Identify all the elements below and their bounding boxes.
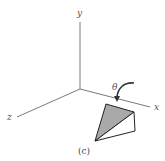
diagram-canvas: [0, 0, 165, 161]
rotation-diagram: y x z θ (c): [0, 0, 165, 161]
z-axis-label: z: [7, 113, 12, 122]
x-axis-label: x: [154, 103, 159, 112]
y-axis-label: y: [77, 9, 82, 18]
figure-caption: (c): [78, 147, 90, 156]
rotation-arrow-icon: [117, 83, 134, 97]
z-axis: [17, 89, 80, 117]
theta-label: θ: [112, 83, 117, 92]
